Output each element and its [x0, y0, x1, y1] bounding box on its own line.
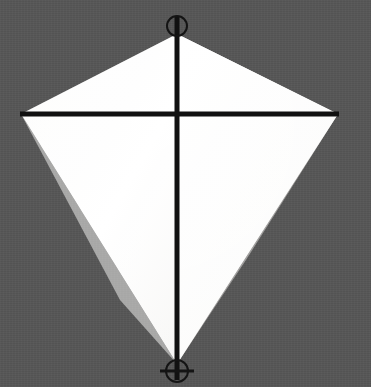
kite-vector-scene	[0, 0, 371, 387]
kite-illustration-canvas: Kite rhombus white #565656	[0, 0, 371, 387]
